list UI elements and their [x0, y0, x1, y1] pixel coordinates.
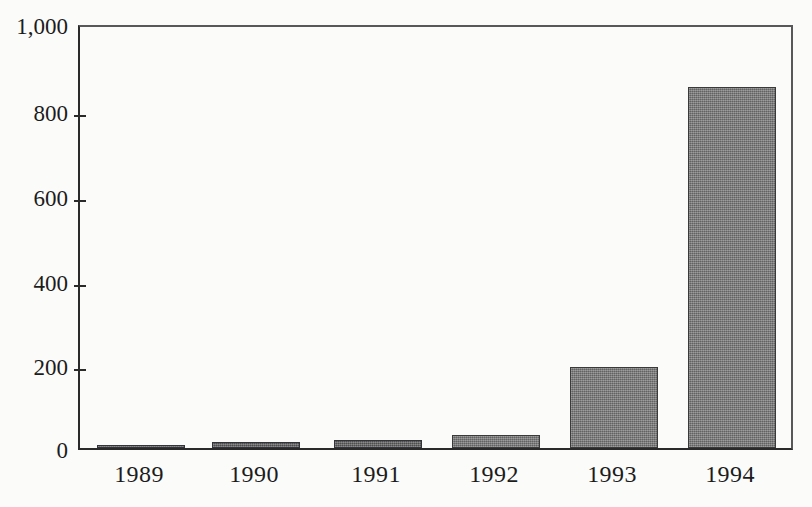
plot-area [78, 25, 793, 450]
x-axis-tick-text: 1991 [351, 461, 401, 487]
x-axis-tick-text: 1992 [469, 461, 519, 487]
x-axis-label-1994: 1994 [670, 461, 790, 488]
y-axis-tick-mark-200 [74, 369, 86, 371]
bar-1993 [570, 367, 658, 448]
y-axis-tick-mark-600 [74, 200, 86, 202]
x-axis-label-1989: 1989 [79, 461, 199, 488]
x-axis-tick-text: 1990 [229, 461, 279, 487]
y-axis-tick-label-200: 200 [0, 355, 68, 381]
y-axis-tick-text: 600 [34, 186, 69, 211]
y-axis-tick-label-0: 0 [0, 438, 68, 464]
x-axis-label-1992: 1992 [434, 461, 554, 488]
y-axis-tick-label-600: 600 [0, 186, 68, 212]
bar-chart: 1,000 800 600 400 200 0 1989 1990 1991 [0, 0, 812, 507]
x-axis-label-1991: 1991 [316, 461, 436, 488]
y-axis-tick-label-800: 800 [0, 101, 68, 127]
x-axis-tick-text: 1994 [705, 461, 755, 487]
x-axis-label-1990: 1990 [194, 461, 314, 488]
y-axis-tick-text: 400 [34, 271, 69, 296]
x-axis-label-1993: 1993 [552, 461, 672, 488]
y-axis-tick-mark-400 [74, 285, 86, 287]
y-axis-tick-text: 0 [57, 438, 69, 463]
bar-1990 [212, 442, 300, 448]
y-axis-tick-label-400: 400 [0, 271, 68, 297]
bar-1991 [334, 440, 422, 448]
x-axis-tick-text: 1989 [114, 461, 164, 487]
y-axis-tick-text: 200 [34, 355, 69, 380]
y-axis-tick-text: 800 [34, 101, 69, 126]
x-axis-tick-text: 1993 [587, 461, 637, 487]
bar-1992 [452, 435, 540, 448]
y-axis-tick-text: 1,000 [16, 14, 68, 39]
bar-1989 [97, 445, 185, 448]
bar-1994 [688, 87, 776, 448]
y-axis-tick-label-1000: 1,000 [0, 14, 68, 40]
y-axis-tick-mark-800 [74, 115, 86, 117]
